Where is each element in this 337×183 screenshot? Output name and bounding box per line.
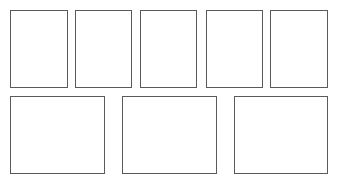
frame-bottom-1[interactable] [10,96,105,174]
frame-grid-canvas [0,0,337,183]
frame-top-2[interactable] [75,10,132,88]
frame-top-3[interactable] [140,10,197,88]
frame-bottom-3[interactable] [234,96,328,174]
frame-top-4[interactable] [206,10,263,88]
frame-top-5[interactable] [270,10,328,88]
frame-top-1[interactable] [10,10,68,88]
frame-bottom-2[interactable] [122,96,217,174]
